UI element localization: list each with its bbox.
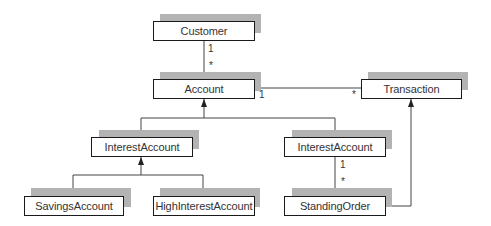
class-label: Customer — [181, 25, 228, 37]
uml-class-diagram: Customer Account Transaction InterestAcc… — [0, 0, 491, 226]
class-transaction[interactable]: Transaction — [361, 79, 462, 99]
generalization-arrowhead-account — [201, 99, 207, 107]
multiplicity-transaction-many: * — [352, 89, 356, 100]
class-standing-order[interactable]: StandingOrder — [284, 196, 386, 216]
class-label: StandingOrder — [300, 200, 370, 212]
generalization-arrowhead-transaction — [408, 99, 414, 107]
class-account[interactable]: Account — [153, 79, 255, 99]
class-label: HighInterestAccount — [155, 200, 252, 212]
multiplicity-interest-one: 1 — [340, 159, 346, 170]
multiplicity-account-one: 1 — [259, 89, 265, 100]
class-label: InterestAccount — [298, 141, 373, 153]
generalization-arrowhead-interest — [138, 157, 144, 165]
class-savings-account[interactable]: SavingsAccount — [24, 196, 124, 216]
multiplicity-customer-one: 1 — [208, 43, 214, 54]
class-label: Account — [184, 83, 223, 95]
class-interest-account-right[interactable]: InterestAccount — [284, 137, 386, 157]
class-label: Transaction — [384, 83, 440, 95]
class-high-interest-account[interactable]: HighInterestAccount — [153, 196, 255, 216]
class-customer[interactable]: Customer — [153, 21, 255, 41]
class-interest-account-left[interactable]: InterestAccount — [91, 137, 193, 157]
class-label: SavingsAccount — [35, 200, 112, 212]
multiplicity-account-many: * — [209, 60, 213, 71]
class-label: InterestAccount — [105, 141, 180, 153]
multiplicity-standing-many: * — [341, 176, 345, 187]
